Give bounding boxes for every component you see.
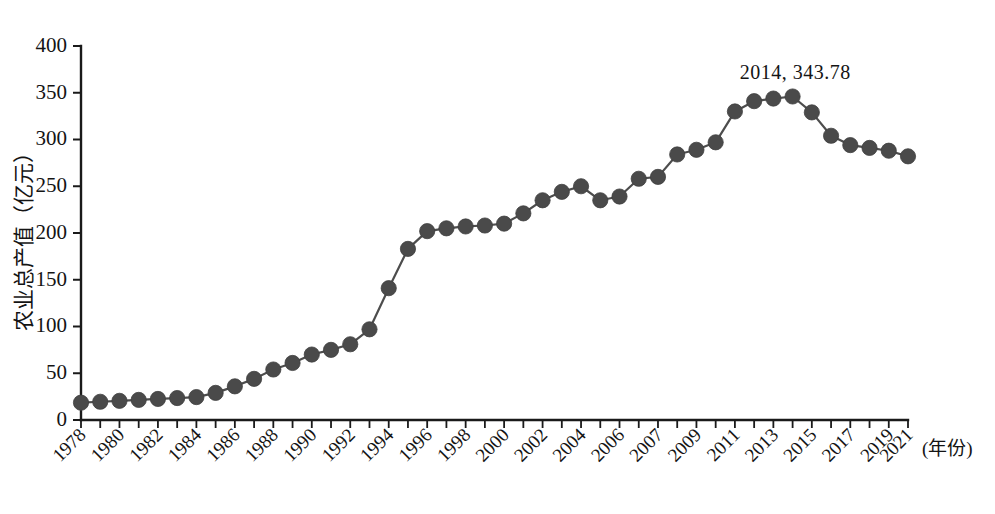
data-series bbox=[73, 89, 915, 410]
x-tick-label: 2006 bbox=[587, 424, 629, 466]
x-tick-label: 1986 bbox=[202, 424, 244, 466]
data-point-marker bbox=[573, 179, 588, 194]
data-point-marker bbox=[150, 391, 165, 406]
x-tick-label: 2017 bbox=[817, 424, 859, 466]
data-point-marker bbox=[804, 105, 819, 120]
data-point-marker bbox=[343, 337, 358, 352]
data-point-marker bbox=[420, 224, 435, 239]
x-tick-label: 1980 bbox=[87, 424, 129, 466]
data-point-marker bbox=[131, 392, 146, 407]
data-point-marker bbox=[285, 355, 300, 370]
x-tick-label: 2007 bbox=[625, 424, 667, 466]
y-tick-label: 100 bbox=[36, 313, 68, 337]
peak-value-annotation: 2014, 343.78 bbox=[740, 61, 851, 83]
y-tick-label: 250 bbox=[36, 173, 68, 197]
series-line bbox=[81, 96, 908, 402]
annotation-layer: 2014, 343.78 bbox=[740, 61, 851, 83]
x-tick-label: 1994 bbox=[356, 424, 398, 466]
x-tick-label: 1998 bbox=[433, 424, 475, 466]
y-tick-label: 350 bbox=[36, 80, 68, 104]
data-point-marker bbox=[189, 389, 204, 404]
x-tick-label: 2011 bbox=[703, 424, 744, 465]
data-point-marker bbox=[708, 135, 723, 150]
y-tick-label: 150 bbox=[36, 267, 68, 291]
data-point-marker bbox=[670, 147, 685, 162]
x-tick-label: 1988 bbox=[240, 424, 282, 466]
data-point-marker bbox=[497, 216, 512, 231]
x-tick-label: 1990 bbox=[279, 424, 321, 466]
y-tick-label: 50 bbox=[46, 360, 67, 384]
data-point-marker bbox=[766, 91, 781, 106]
data-point-marker bbox=[112, 393, 127, 408]
data-point-marker bbox=[631, 171, 646, 186]
x-tick-label: 2015 bbox=[779, 424, 821, 466]
x-tick-label: 2013 bbox=[740, 424, 782, 466]
y-axis: 050100150200250300350400 bbox=[36, 33, 82, 431]
data-point-marker bbox=[535, 193, 550, 208]
data-point-marker bbox=[304, 347, 319, 362]
data-point-marker bbox=[73, 395, 88, 410]
data-point-marker bbox=[516, 206, 531, 221]
data-point-marker bbox=[727, 104, 742, 119]
y-axis-title: 农业总产值（亿元） bbox=[12, 142, 36, 331]
x-tick-label: 2000 bbox=[471, 424, 513, 466]
x-tick-label: 1982 bbox=[125, 424, 167, 466]
agricultural-output-line-chart: 050100150200250300350400 197819801982198… bbox=[0, 0, 995, 514]
data-point-marker bbox=[170, 390, 185, 405]
data-point-marker bbox=[227, 379, 242, 394]
x-axis-title: (年份) bbox=[922, 438, 973, 460]
data-point-marker bbox=[323, 342, 338, 357]
x-axis: 1978198019821984198619881990199219941996… bbox=[48, 420, 917, 466]
data-point-marker bbox=[785, 89, 800, 104]
y-tick-label: 400 bbox=[36, 33, 68, 57]
data-point-marker bbox=[612, 189, 627, 204]
data-point-marker bbox=[266, 362, 281, 377]
data-point-marker bbox=[400, 241, 415, 256]
x-tick-label: 1992 bbox=[317, 424, 359, 466]
data-point-marker bbox=[650, 169, 665, 184]
data-point-marker bbox=[246, 371, 261, 386]
data-point-marker bbox=[823, 128, 838, 143]
data-point-marker bbox=[439, 221, 454, 236]
data-point-marker bbox=[381, 281, 396, 296]
x-tick-label: 1984 bbox=[164, 424, 206, 466]
x-tick-label: 2004 bbox=[548, 424, 590, 466]
data-point-marker bbox=[843, 138, 858, 153]
data-point-marker bbox=[477, 218, 492, 233]
data-point-marker bbox=[900, 149, 915, 164]
data-point-marker bbox=[362, 322, 377, 337]
data-point-marker bbox=[458, 219, 473, 234]
data-point-marker bbox=[881, 143, 896, 158]
chart-svg: 050100150200250300350400 197819801982198… bbox=[0, 0, 995, 514]
x-tick-label: 2002 bbox=[510, 424, 552, 466]
data-point-marker bbox=[554, 184, 569, 199]
y-tick-label: 200 bbox=[36, 220, 68, 244]
x-tick-label: 2009 bbox=[664, 424, 706, 466]
data-point-marker bbox=[689, 142, 704, 157]
y-tick-label: 300 bbox=[36, 126, 68, 150]
y-tick-label: 0 bbox=[57, 407, 68, 431]
data-point-marker bbox=[208, 385, 223, 400]
x-tick-label: 1996 bbox=[394, 424, 436, 466]
data-point-marker bbox=[747, 94, 762, 109]
data-point-marker bbox=[93, 394, 108, 409]
x-tick-label: 1978 bbox=[48, 424, 90, 466]
data-point-marker bbox=[593, 193, 608, 208]
data-point-marker bbox=[862, 140, 877, 155]
